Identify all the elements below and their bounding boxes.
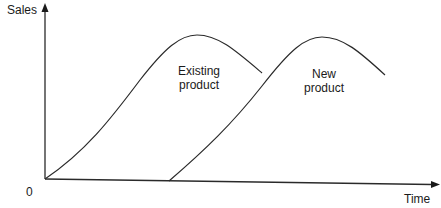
origin-label: 0: [26, 185, 33, 199]
y-axis-label: Sales: [7, 3, 37, 17]
existing-product-label-line1: Existing: [178, 64, 220, 78]
new-product-curve: [169, 37, 385, 181]
y-axis-arrowhead-icon: [42, 3, 49, 12]
new-product-label: New product: [304, 67, 344, 95]
existing-product-label: Existing product: [178, 64, 220, 92]
existing-product-label-line2: product: [178, 78, 220, 92]
new-product-label-line2: product: [304, 81, 344, 95]
x-axis-label: Time: [404, 192, 430, 206]
x-axis-arrowhead-icon: [431, 181, 440, 188]
chart-canvas: [0, 0, 441, 208]
existing-product-curve: [45, 35, 262, 179]
new-product-label-line1: New: [304, 67, 344, 81]
x-axis: [45, 179, 432, 185]
